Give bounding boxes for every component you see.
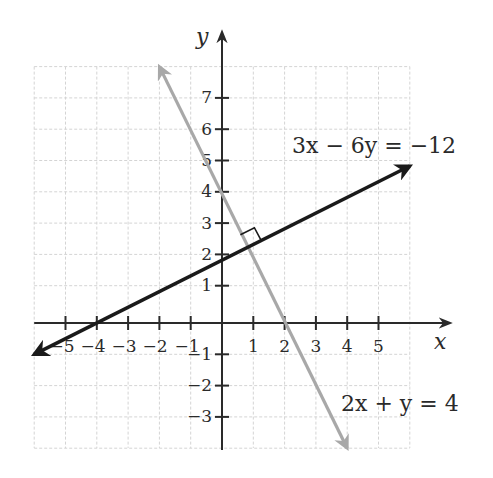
x-tick-labels: −5 −4 −3 −2 −1 1 2 3 4 5	[49, 336, 383, 356]
equation-label-gray: 2x + y = 4	[341, 391, 459, 416]
y-axis-label: y	[195, 24, 209, 49]
y-tick-label: 7	[201, 87, 212, 107]
x-tick-label: −4	[80, 336, 105, 356]
y-tick-label: −2	[187, 375, 212, 395]
y-tick-label: 6	[201, 119, 212, 139]
coordinate-plane: −5 −4 −3 −2 −1 1 2 3 4 5 1 2 3 4 5 6 7 −…	[0, 0, 493, 478]
y-tick-label: 3	[201, 213, 212, 233]
x-tick-label: 2	[279, 336, 290, 356]
x-tick-label: −2	[142, 336, 167, 356]
x-tick-label: −3	[111, 336, 136, 356]
y-tick-label: −1	[187, 344, 212, 364]
x-tick-label: 5	[373, 336, 384, 356]
equation-label-black: 3x − 6y = −12	[292, 133, 456, 158]
y-tick-label: −3	[187, 406, 212, 426]
y-tick-label: 1	[201, 275, 212, 295]
x-tick-label: 1	[248, 336, 259, 356]
x-tick-label: 4	[342, 336, 353, 356]
x-tick-label: 3	[310, 336, 321, 356]
y-tick-label: 4	[201, 181, 212, 201]
x-axis-label: x	[434, 329, 447, 354]
y-tick-label: 2	[201, 244, 212, 264]
